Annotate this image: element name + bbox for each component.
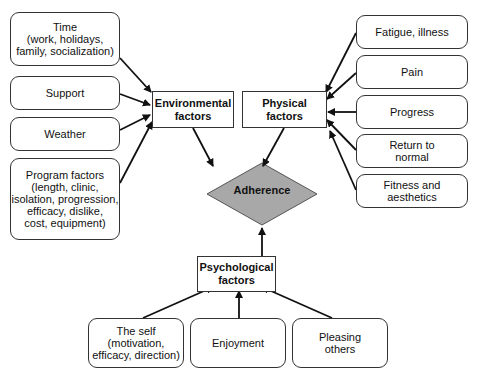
env-item-program-factors: Program factors (length, clinic, isolati… — [10, 158, 120, 240]
psych-item-the-self: The self (motivation, efficacy, directio… — [88, 318, 184, 368]
phys-item-fatigue: Fatigue, illness — [356, 15, 468, 49]
phys-item-progress: Progress — [356, 95, 468, 129]
environmental-factors-box: Environmental factors — [152, 91, 234, 128]
adherence-label: Adherence — [222, 184, 302, 196]
phys-item-pain: Pain — [356, 55, 468, 89]
env-item-time: Time (work, holidays, family, socializat… — [10, 12, 120, 66]
psych-item-enjoyment: Enjoyment — [190, 318, 286, 368]
psychological-factors-box: Psychological factors — [197, 256, 276, 292]
physical-factors-box: Physical factors — [242, 91, 327, 128]
psych-item-pleasing-others: Pleasing others — [292, 318, 388, 368]
env-item-support: Support — [10, 76, 120, 110]
env-item-weather: Weather — [10, 117, 120, 151]
phys-item-fitness: Fitness and aesthetics — [356, 174, 468, 208]
phys-item-return-to-normal: Return to normal — [356, 134, 468, 168]
